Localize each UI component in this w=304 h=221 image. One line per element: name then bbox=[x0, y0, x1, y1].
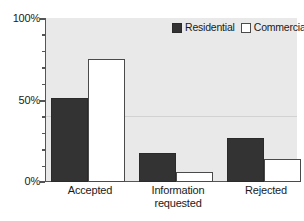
y-axis-label-0: 0% bbox=[0, 176, 40, 187]
bar-group-accepted bbox=[45, 18, 135, 182]
dark-square-swatch-icon bbox=[172, 23, 182, 33]
x-axis-labels: Accepted Information requested Rejected bbox=[45, 184, 297, 221]
bars-layer bbox=[45, 18, 297, 182]
y-axis-label-100: 100% bbox=[0, 13, 40, 24]
x-axis-label-accepted-line1: Accepted bbox=[45, 184, 135, 197]
bar-commercial-accepted bbox=[88, 59, 125, 182]
y-axis-labels: 100% 50% 0% bbox=[0, 0, 40, 221]
bar-residential-information-requested bbox=[139, 153, 176, 183]
bar-group-information-requested bbox=[133, 18, 223, 182]
x-axis-label-rejected-line1: Rejected bbox=[221, 184, 304, 197]
bar-residential-rejected bbox=[227, 138, 264, 182]
legend-label-residential: Residential bbox=[185, 22, 235, 33]
legend-label-commercial: Commercial bbox=[254, 22, 304, 33]
x-axis-label-information-requested: Information requested bbox=[133, 184, 223, 210]
x-axis-label-information-requested-line2: requested bbox=[133, 197, 223, 210]
bar-commercial-rejected bbox=[264, 159, 301, 182]
bar-commercial-information-requested bbox=[176, 172, 213, 182]
legend: Residential Commercial bbox=[172, 21, 304, 34]
legend-entry-commercial: Commercial bbox=[241, 22, 304, 33]
bar-group-rejected bbox=[221, 18, 304, 182]
x-axis-label-accepted: Accepted bbox=[45, 184, 135, 197]
x-axis-label-rejected: Rejected bbox=[221, 184, 304, 197]
bar-residential-accepted bbox=[51, 98, 88, 182]
bar-chart: 100% 50% 0% Accepted Information request… bbox=[0, 0, 304, 221]
legend-entry-residential: Residential bbox=[172, 22, 235, 33]
white-square-swatch-icon bbox=[241, 23, 251, 33]
x-axis-label-information-requested-line1: Information bbox=[133, 184, 223, 197]
y-axis-label-50: 50% bbox=[0, 95, 40, 106]
